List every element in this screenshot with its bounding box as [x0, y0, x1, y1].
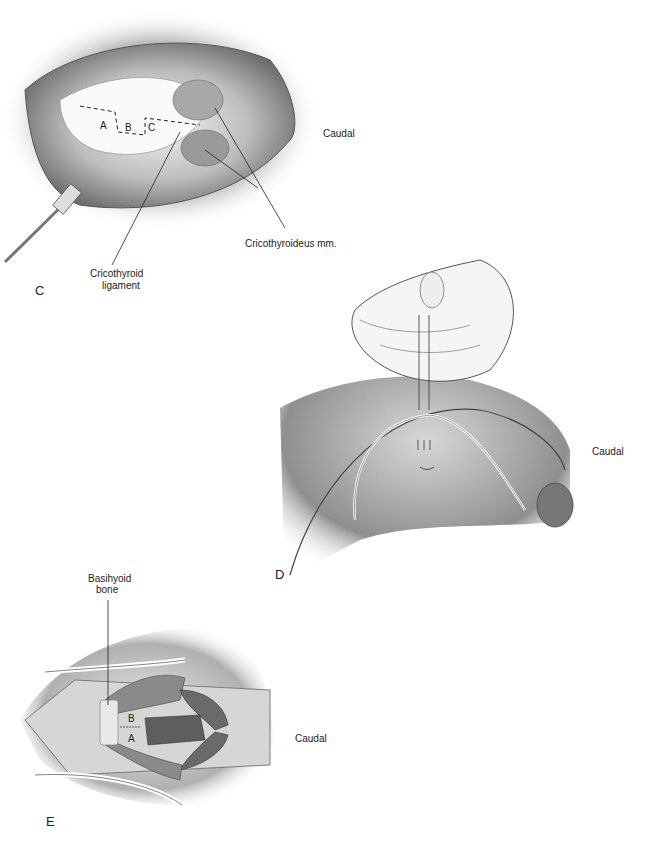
suture-label-b: B — [128, 713, 135, 725]
incision-label-b: B — [125, 122, 132, 134]
panel-letter-c: C — [35, 283, 44, 298]
incision-label-c: C — [148, 122, 155, 134]
orientation-label-caudal: Caudal — [323, 128, 355, 140]
cricothyroid-label-line1: Cricothyroid — [90, 268, 143, 280]
cricothyroideus-label: Cricothyroideus mm. — [245, 238, 337, 250]
basihyoid-label-line2: bone — [96, 584, 118, 596]
incision-label-a: A — [100, 120, 107, 132]
panel-e-illustration — [20, 600, 274, 806]
orientation-label-caudal: Caudal — [295, 733, 327, 745]
panel-letter-e: E — [46, 814, 55, 829]
orientation-label-caudal: Caudal — [592, 446, 624, 458]
panel-d-illustration — [280, 260, 573, 590]
suture-label-a: A — [128, 733, 135, 745]
panel-c-illustration — [0, 10, 320, 265]
cricothyroid-label-line2: ligament — [102, 280, 140, 292]
panel-letter-d: D — [275, 567, 284, 582]
